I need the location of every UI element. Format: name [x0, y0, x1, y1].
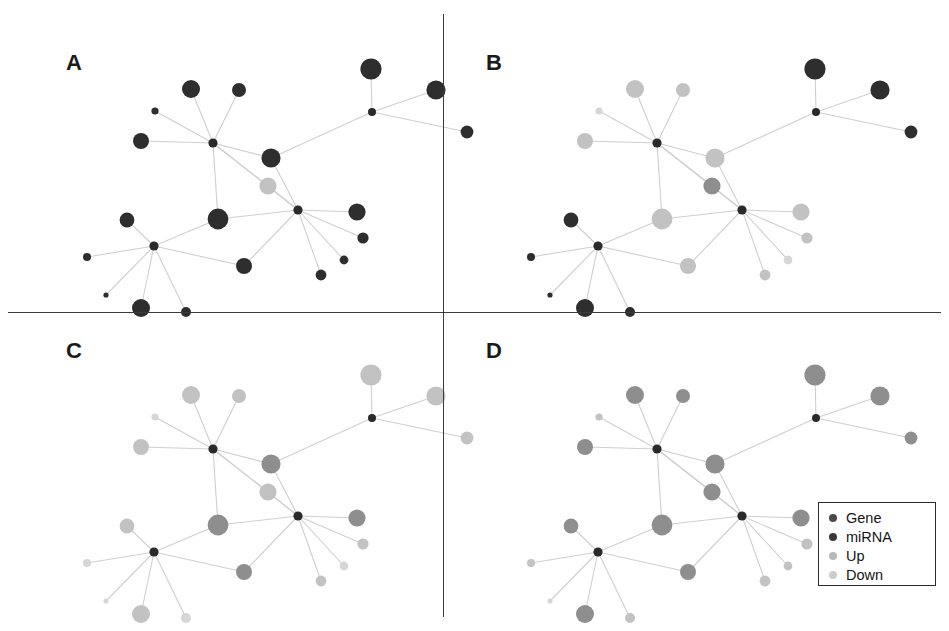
network-edge [213, 90, 239, 143]
network-edge [657, 396, 683, 449]
network-edge [372, 112, 467, 132]
network-node [232, 389, 246, 403]
network-hub-node [593, 241, 602, 250]
network-node [595, 107, 602, 114]
network-edge [742, 516, 801, 518]
network-node [626, 386, 644, 404]
network-edge [585, 141, 657, 143]
network-node [316, 270, 327, 281]
network-edge [657, 143, 662, 219]
network-node [705, 148, 724, 167]
network-node [577, 439, 593, 455]
mirna-swatch-icon [829, 533, 837, 541]
network-edge [154, 552, 186, 618]
network-node [676, 83, 690, 97]
legend-item-gene: Gene [829, 509, 935, 527]
network-hub-node [208, 138, 217, 147]
network-hub-node [652, 444, 661, 453]
network-node [83, 253, 91, 261]
network-edge [531, 552, 598, 563]
network-edge [599, 111, 657, 143]
network-node [236, 258, 252, 274]
network-edge [742, 210, 801, 212]
network-node [705, 454, 724, 473]
network-node [120, 213, 135, 228]
network-node [232, 83, 246, 97]
network-edge [271, 418, 372, 464]
network-edge [816, 396, 880, 418]
network-node [870, 386, 889, 405]
network-edge [372, 418, 467, 438]
legend-item-mirna: miRNA [829, 528, 935, 546]
network-node [547, 598, 552, 603]
network-node [461, 126, 474, 139]
network-node [357, 232, 368, 243]
network-edge [154, 246, 244, 266]
network-node [680, 258, 696, 274]
network-hub-node [593, 547, 602, 556]
network-hub-node [812, 108, 820, 116]
network-edge [585, 246, 598, 308]
network-edge [298, 516, 321, 581]
network-edge [271, 112, 372, 158]
panel-divider-vertical [443, 14, 444, 617]
network-node [576, 299, 594, 317]
network-edge [742, 210, 788, 260]
network-node [905, 126, 918, 139]
network-node [182, 386, 200, 404]
network-edge [585, 552, 598, 614]
network-edge [106, 552, 154, 601]
network-edge [141, 246, 154, 308]
network-node [181, 613, 191, 623]
network-edge [742, 210, 765, 275]
network-edge [598, 552, 630, 618]
legend-label-gene: Gene [846, 511, 881, 526]
network-node [133, 439, 149, 455]
network-node [784, 562, 793, 571]
network-node [626, 80, 644, 98]
network-edge [155, 417, 213, 449]
up-swatch-icon [829, 552, 837, 560]
network-hub-node [149, 241, 158, 250]
panel-label-b: B [486, 50, 502, 76]
network-node [348, 203, 365, 220]
panel-label-d: D [486, 338, 502, 364]
panel-b-network [527, 58, 917, 317]
network-node [151, 107, 158, 114]
network-edge [531, 246, 598, 257]
legend-label-up: Up [846, 549, 865, 564]
network-edge [598, 246, 688, 266]
network-node [547, 292, 552, 297]
network-hub-node [293, 511, 302, 520]
network-edge [372, 396, 436, 418]
network-edge [141, 447, 213, 449]
network-hub-node [652, 138, 661, 147]
network-node [103, 292, 108, 297]
network-edge [657, 449, 662, 525]
network-node [680, 564, 696, 580]
network-edge [244, 516, 298, 572]
network-node [527, 559, 535, 567]
network-node [236, 564, 252, 580]
network-node [792, 203, 809, 220]
network-node [804, 364, 825, 385]
network-node [804, 58, 825, 79]
network-edge [298, 210, 344, 260]
network-edge [742, 516, 765, 581]
panel-divider-horizontal [8, 312, 941, 313]
network-node [652, 515, 673, 536]
legend-item-down: Down [829, 566, 935, 584]
network-node [357, 538, 368, 549]
network-edge [816, 112, 911, 132]
network-edge [87, 552, 154, 563]
network-hub-node [293, 205, 302, 214]
network-edge [154, 219, 218, 246]
network-node [360, 364, 381, 385]
network-edge [550, 246, 598, 295]
network-node [133, 133, 149, 149]
network-edge [298, 516, 344, 566]
legend-label-down: Down [846, 568, 883, 583]
network-node [461, 432, 474, 445]
network-node [564, 519, 579, 534]
network-edge [715, 418, 816, 464]
